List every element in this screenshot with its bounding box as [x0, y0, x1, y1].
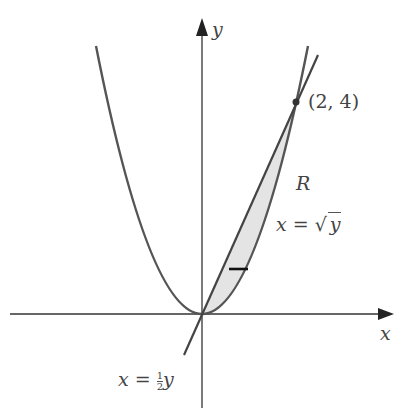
parabola-eq-sign: =: [293, 213, 309, 235]
graph-canvas: [0, 0, 402, 409]
parabola-equation: x = √y: [276, 212, 341, 235]
y-axis-label: y: [212, 18, 223, 40]
y-axis-arrow-icon: [196, 18, 208, 36]
sqrt-icon: √: [315, 213, 327, 235]
region-label: R: [296, 172, 310, 194]
line-eq-lhs: x: [118, 368, 129, 390]
point-label: (2, 4): [308, 90, 359, 112]
line-eq-sign: =: [135, 368, 151, 390]
parabola-eq-lhs: x: [276, 213, 287, 235]
parabola-eq-rhs: y: [328, 212, 341, 235]
line-eq-var: y: [163, 368, 174, 390]
x-axis-arrow-icon: [378, 308, 394, 320]
line-equation: x = 12y: [118, 368, 174, 392]
x-axis-label: x: [380, 322, 391, 344]
intersection-point: [293, 99, 300, 106]
